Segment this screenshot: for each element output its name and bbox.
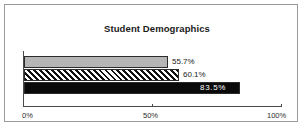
plot-area: 55.7% 60.1% 83.5% 0% 50% 100% bbox=[24, 51, 282, 107]
chart-title: Student Demographics bbox=[5, 23, 304, 34]
bar-series-2 bbox=[24, 69, 179, 81]
x-axis-tick-100 bbox=[281, 104, 282, 107]
bar-series-1 bbox=[24, 56, 168, 68]
bar-row: 55.7% bbox=[24, 56, 282, 69]
bar-group: 55.7% 60.1% 83.5% bbox=[24, 56, 282, 95]
chart-frame: Student Demographics 55.7% 60.1% 83.5% 0… bbox=[4, 4, 298, 122]
bar-row: 60.1% bbox=[24, 69, 282, 82]
x-axis-tick-50 bbox=[152, 104, 153, 107]
x-tick-label-0: 0% bbox=[22, 111, 33, 120]
bar-value-label-2: 60.1% bbox=[183, 69, 206, 81]
x-tick-label-100: 100% bbox=[267, 111, 286, 120]
bar-value-label-1: 55.7% bbox=[172, 56, 195, 68]
x-axis-tick-0 bbox=[23, 104, 24, 107]
x-tick-label-50: 50% bbox=[143, 111, 158, 120]
bar-value-label-3: 83.5% bbox=[200, 82, 226, 94]
bar-row: 83.5% bbox=[24, 82, 282, 95]
